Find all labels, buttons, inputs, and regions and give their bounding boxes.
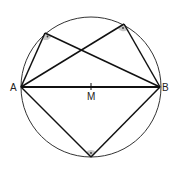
segment-c2-b [124,24,160,87]
segment-c1-b [45,33,160,87]
label-m: M [87,91,95,102]
segment-a-c2 [21,24,124,87]
label-a: A [10,82,17,93]
segment-c3-b [91,87,160,157]
label-b: B [162,82,169,93]
thales-diagram: A B M [0,0,178,170]
segment-a-c3 [21,87,91,157]
